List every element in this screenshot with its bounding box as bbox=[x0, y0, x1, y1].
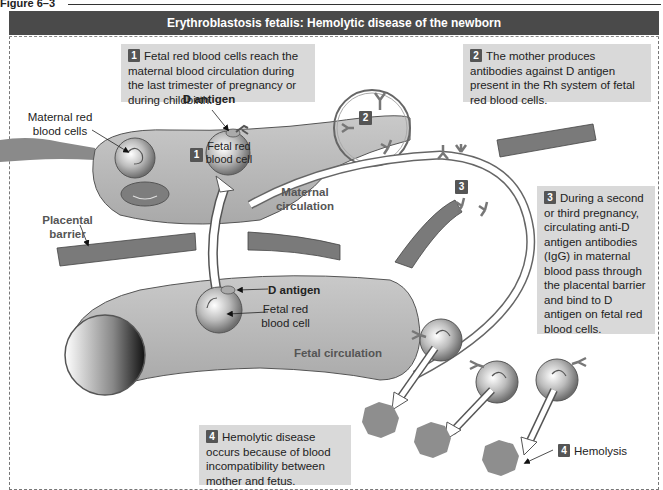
step-4-badge: 4 bbox=[206, 430, 218, 443]
fetal-rbc-bottom-label: Fetal red blood cell bbox=[258, 302, 313, 330]
maternal-circulation-label: Maternal circulation bbox=[270, 185, 340, 213]
maternal-rbc-side bbox=[121, 182, 169, 206]
step-3-note: 3During a second or third pregnancy, cir… bbox=[537, 186, 655, 334]
uterine-wall bbox=[0, 138, 95, 162]
d-antigen-top-label: D antigen bbox=[174, 92, 244, 106]
lysed-cells bbox=[362, 402, 519, 476]
maternal-rbc bbox=[115, 138, 155, 178]
hemolysis-label: 4Hemolysis bbox=[558, 444, 628, 458]
fetal-rbc-top-label: Fetal red blood cell bbox=[203, 140, 255, 166]
placental-barrier-label: Placental barrier bbox=[40, 213, 95, 241]
maternal-rbc-label: Maternal red blood cells bbox=[20, 110, 100, 138]
fetal-rbc-fetal bbox=[196, 287, 242, 333]
step-2-note: 2The mother produces antibodies against … bbox=[463, 44, 651, 102]
step-4-note: 4Hemolytic disease occurs because of blo… bbox=[199, 425, 351, 485]
fetal-vessel bbox=[65, 276, 420, 395]
d-antigen-bottom-label: D antigen bbox=[268, 283, 328, 297]
step-4-text: Hemolytic disease occurs because of bloo… bbox=[206, 431, 331, 487]
diagram-badge-3: 3 bbox=[455, 180, 468, 194]
step-3-badge: 3 bbox=[544, 191, 556, 204]
fetal-circulation-label: Fetal circulation bbox=[288, 346, 388, 360]
step-2-text: The mother produces antibodies against D… bbox=[470, 50, 635, 106]
step-3-text: During a second or third pregnancy, circ… bbox=[544, 192, 646, 335]
diagram-badge-1: 1 bbox=[190, 148, 203, 162]
fetal-vessel-lumen bbox=[65, 315, 145, 395]
hemolysis-badge: 4 bbox=[558, 444, 570, 457]
step-1-badge: 1 bbox=[128, 49, 140, 62]
step-2-badge: 2 bbox=[470, 49, 482, 62]
diagram-badge-2: 2 bbox=[359, 111, 372, 125]
